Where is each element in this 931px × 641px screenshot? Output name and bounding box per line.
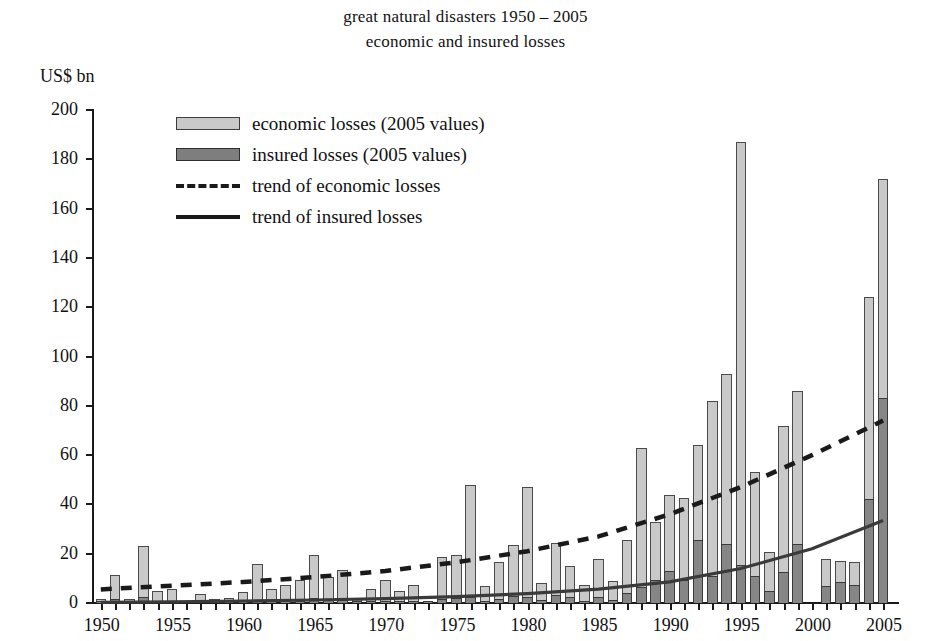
legend-item-trend-insured: trend of insured losses xyxy=(176,201,485,232)
x-tick-label-1965: 1965 xyxy=(297,615,333,636)
x-tick-1993 xyxy=(712,603,714,610)
x-tick-label-1960: 1960 xyxy=(226,615,262,636)
legend-label-trend-insured: trend of insured losses xyxy=(252,206,422,228)
x-tick-1959 xyxy=(229,603,231,610)
x-tick-1969 xyxy=(371,603,373,610)
x-tick-1998 xyxy=(784,603,786,610)
legend-swatch-trend-economic xyxy=(176,184,240,188)
y-tick-label-0: 0 xyxy=(69,592,78,613)
chart-title-line-2: economic and insured losses xyxy=(0,29,931,54)
x-tick-1953 xyxy=(143,603,145,610)
x-tick-2001 xyxy=(826,603,828,610)
x-tick-1970 xyxy=(385,603,387,610)
x-tick-1967 xyxy=(343,603,345,610)
x-tick-1956 xyxy=(186,603,188,610)
x-tick-label-1980: 1980 xyxy=(511,615,547,636)
legend-label-insured-losses: insured losses (2005 values) xyxy=(252,144,467,166)
x-tick-1961 xyxy=(257,603,259,610)
x-tick-2000 xyxy=(812,603,814,610)
legend-swatch-insured-losses xyxy=(176,148,240,161)
x-tick-1958 xyxy=(215,603,217,610)
chart-title: great natural disasters 1950 – 2005 econ… xyxy=(0,4,931,54)
x-tick-1957 xyxy=(200,603,202,610)
y-tick-label-80: 80 xyxy=(60,394,78,415)
x-tick-label-1970: 1970 xyxy=(368,615,404,636)
x-tick-1975 xyxy=(456,603,458,610)
legend-swatch-economic-losses xyxy=(176,117,240,130)
x-tick-1985 xyxy=(599,603,601,610)
chart-figure: great natural disasters 1950 – 2005 econ… xyxy=(0,0,931,641)
x-tick-2002 xyxy=(840,603,842,610)
x-tick-1966 xyxy=(328,603,330,610)
x-tick-label-1955: 1955 xyxy=(155,615,191,636)
trend-line-insured xyxy=(101,520,883,602)
x-tick-1971 xyxy=(399,603,401,610)
x-tick-1990 xyxy=(670,603,672,610)
x-tick-label-1995: 1995 xyxy=(724,615,760,636)
x-tick-1992 xyxy=(698,603,700,610)
y-tick-label-120: 120 xyxy=(51,296,78,317)
chart-legend: economic losses (2005 values) insured lo… xyxy=(176,108,485,232)
x-tick-1955 xyxy=(172,603,174,610)
x-tick-1995 xyxy=(741,603,743,610)
x-tick-1983 xyxy=(570,603,572,610)
y-tick-label-140: 140 xyxy=(51,246,78,267)
x-tick-1989 xyxy=(656,603,658,610)
y-tick-label-20: 20 xyxy=(60,542,78,563)
legend-item-economic-losses: economic losses (2005 values) xyxy=(176,108,485,139)
chart-title-line-1: great natural disasters 1950 – 2005 xyxy=(0,4,931,29)
x-tick-1987 xyxy=(627,603,629,610)
x-tick-1977 xyxy=(485,603,487,610)
x-tick-1988 xyxy=(641,603,643,610)
x-tick-label-1975: 1975 xyxy=(439,615,475,636)
y-tick-label-160: 160 xyxy=(51,197,78,218)
legend-item-insured-losses: insured losses (2005 values) xyxy=(176,139,485,170)
x-tick-1950 xyxy=(101,603,103,610)
x-tick-1962 xyxy=(271,603,273,610)
x-tick-1963 xyxy=(286,603,288,610)
x-tick-label-1985: 1985 xyxy=(582,615,618,636)
x-tick-label-1990: 1990 xyxy=(653,615,689,636)
x-tick-1951 xyxy=(115,603,117,610)
y-tick-label-60: 60 xyxy=(60,444,78,465)
x-tick-1997 xyxy=(769,603,771,610)
x-tick-1982 xyxy=(556,603,558,610)
trend-line-economic xyxy=(101,421,883,590)
x-tick-2005 xyxy=(883,603,885,610)
x-tick-1978 xyxy=(499,603,501,610)
x-tick-1964 xyxy=(300,603,302,610)
y-tick-label-40: 40 xyxy=(60,493,78,514)
x-tick-1954 xyxy=(158,603,160,610)
x-tick-1965 xyxy=(314,603,316,610)
x-tick-label-2005: 2005 xyxy=(866,615,902,636)
y-axis-unit-label: US$ bn xyxy=(40,66,95,87)
y-tick-label-200: 200 xyxy=(51,99,78,120)
x-tick-1991 xyxy=(684,603,686,610)
y-tick-label-180: 180 xyxy=(51,148,78,169)
x-tick-1999 xyxy=(798,603,800,610)
x-tick-1979 xyxy=(513,603,515,610)
x-tick-1968 xyxy=(357,603,359,610)
x-tick-2003 xyxy=(855,603,857,610)
x-tick-1986 xyxy=(613,603,615,610)
x-tick-label-1950: 1950 xyxy=(84,615,120,636)
x-tick-1960 xyxy=(243,603,245,610)
x-tick-label-2000: 2000 xyxy=(795,615,831,636)
x-tick-1973 xyxy=(428,603,430,610)
legend-label-trend-economic: trend of economic losses xyxy=(252,175,440,197)
x-tick-1996 xyxy=(755,603,757,610)
x-tick-1994 xyxy=(727,603,729,610)
x-tick-1984 xyxy=(584,603,586,610)
x-tick-1981 xyxy=(542,603,544,610)
x-tick-1972 xyxy=(414,603,416,610)
x-tick-1974 xyxy=(442,603,444,610)
legend-label-economic-losses: economic losses (2005 values) xyxy=(252,113,485,135)
legend-swatch-trend-insured xyxy=(176,215,240,219)
x-tick-1980 xyxy=(528,603,530,610)
x-tick-1976 xyxy=(471,603,473,610)
x-tick-2004 xyxy=(869,603,871,610)
x-tick-1952 xyxy=(129,603,131,610)
y-tick-label-100: 100 xyxy=(51,345,78,366)
legend-item-trend-economic: trend of economic losses xyxy=(176,170,485,201)
